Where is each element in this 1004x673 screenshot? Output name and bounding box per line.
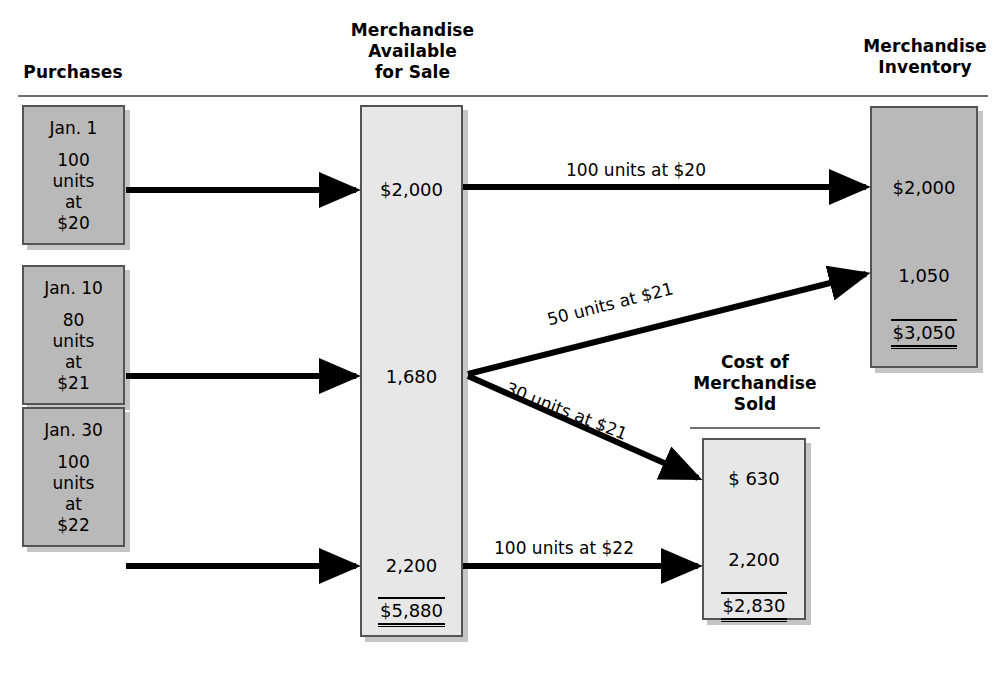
heading-cost-of-merchandise-sold: Cost of Merchandise Sold xyxy=(680,352,830,415)
purchase-date-jan-10: Jan. 10 xyxy=(24,278,123,299)
flow-label-100-units-at-20: 100 units at $20 xyxy=(566,160,706,180)
flow-label-30-units-at-21: 30 units at $21 xyxy=(503,378,631,444)
cogs-total: $2,830 xyxy=(721,592,788,622)
merchandise-inventory-box: $2,000 1,050 $3,050 xyxy=(870,106,978,368)
inventory-total-wrap: $3,050 xyxy=(872,319,976,349)
purchase-date-jan-1: Jan. 1 xyxy=(24,118,123,139)
cogs-line-1: $ 630 xyxy=(704,468,804,490)
inventory-total: $3,050 xyxy=(891,319,958,349)
inventory-line-2: 1,050 xyxy=(872,265,976,287)
purchase-box-jan-30: Jan. 30 100 units at $22 xyxy=(22,407,125,547)
inventory-flow-diagram: Purchases Merchandise Available for Sale… xyxy=(0,0,1004,673)
header-rule-top xyxy=(18,95,988,97)
purchase-detail-jan-1: 100 units at $20 xyxy=(24,150,123,234)
heading-merchandise-available-for-sale: Merchandise Available for Sale xyxy=(340,20,485,83)
purchase-box-jan-10: Jan. 10 80 units at $21 xyxy=(22,265,125,405)
heading-merchandise-inventory: Merchandise Inventory xyxy=(855,36,995,78)
cost-of-merchandise-sold-box: $ 630 2,200 $2,830 xyxy=(702,438,806,620)
header-rule-cost-of-merchandise-sold xyxy=(690,427,820,429)
purchase-box-jan-1: Jan. 1 100 units at $20 xyxy=(22,105,125,245)
available-line-3: 2,200 xyxy=(362,555,461,577)
purchase-date-jan-30: Jan. 30 xyxy=(24,420,123,441)
cogs-total-wrap: $2,830 xyxy=(704,592,804,622)
available-line-2: 1,680 xyxy=(362,366,461,388)
flow-label-100-units-at-22: 100 units at $22 xyxy=(494,538,634,558)
flow-label-50-units-at-21: 50 units at $21 xyxy=(545,278,675,329)
cogs-line-2: 2,200 xyxy=(704,549,804,571)
available-total-wrap: $5,880 xyxy=(362,597,461,627)
merchandise-available-box: $2,000 1,680 2,200 $5,880 xyxy=(360,105,463,637)
purchase-detail-jan-30: 100 units at $22 xyxy=(24,452,123,536)
heading-purchases: Purchases xyxy=(8,62,138,83)
available-total: $5,880 xyxy=(378,597,445,627)
flow-arrows xyxy=(0,0,1004,673)
inventory-line-1: $2,000 xyxy=(872,177,976,199)
available-line-1: $2,000 xyxy=(362,179,461,201)
purchase-detail-jan-10: 80 units at $21 xyxy=(24,310,123,394)
